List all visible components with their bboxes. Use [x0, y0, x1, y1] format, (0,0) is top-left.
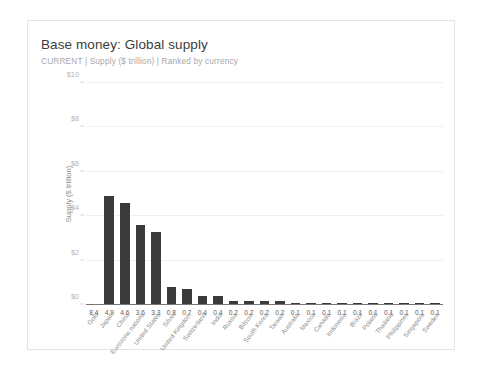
x-axis-label-slot: Brazil: [350, 311, 366, 371]
bar-slot[interactable]: 0.1: [334, 83, 350, 305]
bar-slot[interactable]: 0.4: [210, 83, 226, 305]
bar[interactable]: [120, 203, 130, 305]
bar-slot[interactable]: 0.1: [350, 83, 366, 305]
x-axis-label-slot: Philippines: [396, 311, 412, 371]
bar-slot[interactable]: 4.9: [102, 83, 118, 305]
x-axis-labels: GoldJapanChinaEurozone nationsUnited Sta…: [86, 311, 443, 371]
bar-slot[interactable]: 0.8: [164, 83, 180, 305]
bar-slot[interactable]: 0.2: [226, 83, 242, 305]
x-axis-label-slot: Australia: [288, 311, 304, 371]
bar-slot[interactable]: 0.1: [381, 83, 397, 305]
x-axis-category-label: Gold: [85, 311, 99, 326]
bar-slot[interactable]: 0.1: [365, 83, 381, 305]
bar-slot[interactable]: 3.3: [148, 83, 164, 305]
bar-slot[interactable]: 0.1: [412, 83, 428, 305]
y-axis-tick-label: $10: [67, 70, 79, 79]
x-axis-label-slot: India: [210, 311, 226, 371]
x-axis-label-slot: Canada: [319, 311, 335, 371]
bar[interactable]: [136, 225, 146, 305]
bar-slot[interactable]: 4.6: [117, 83, 133, 305]
x-axis-line: [86, 304, 443, 305]
y-axis-tick-mark: [80, 259, 84, 260]
bar-slot[interactable]: 0.2: [272, 83, 288, 305]
y-axis-tick-label: $0: [71, 292, 79, 301]
y-axis-tick-label: $4: [71, 203, 79, 212]
bar-slot[interactable]: 0.1: [319, 83, 335, 305]
x-axis-label-slot: South Korea: [257, 311, 273, 371]
bar-slot[interactable]: 0.7: [179, 83, 195, 305]
bar-slot[interactable]: 0.2: [241, 83, 257, 305]
page-title: Base money: Global supply: [41, 37, 208, 52]
bar-slot[interactable]: 0.1: [427, 83, 443, 305]
bar-slot[interactable]: 0.1: [303, 83, 319, 305]
x-axis-label-slot: Russia: [226, 311, 242, 371]
bar-slot[interactable]: 0.4: [195, 83, 211, 305]
y-axis-tick-mark: [80, 170, 84, 171]
x-axis-label-slot: United States: [148, 311, 164, 371]
x-axis-label-slot: Singapore: [412, 311, 428, 371]
bar[interactable]: [151, 232, 161, 305]
x-axis-label-slot: Japan: [102, 311, 118, 371]
chart-card: Base money: Global supply CURRENT | Supp…: [27, 20, 455, 350]
bar-slot[interactable]: 8.4: [86, 83, 102, 305]
x-axis-label-slot: Sweden: [427, 311, 443, 371]
x-axis-category-label: Japan: [98, 311, 114, 329]
bar[interactable]: [104, 196, 114, 305]
chart-subtitle: CURRENT | Supply ($ trillion) | Ranked b…: [41, 56, 238, 66]
x-axis-label-slot: Switzerland: [195, 311, 211, 371]
x-axis-label-slot: Gold: [86, 311, 102, 371]
y-axis-title: Supply ($ trillion): [64, 166, 73, 223]
bar[interactable]: [167, 287, 177, 305]
bar[interactable]: [182, 289, 192, 305]
bar-slot[interactable]: 3.6: [133, 83, 149, 305]
bar-slot[interactable]: 0.1: [288, 83, 304, 305]
y-axis-tick-label: $6: [71, 158, 79, 167]
x-axis-label-slot: Mexico: [303, 311, 319, 371]
x-axis-label-slot: Taiwan: [272, 311, 288, 371]
y-axis-tick-mark: [80, 126, 84, 127]
bar-slot[interactable]: 0.2: [257, 83, 273, 305]
plot-area: Supply ($ trillion) $0$2$4$6$8$10 8.44.9…: [86, 83, 443, 305]
y-axis-tick-mark: [80, 215, 84, 216]
y-axis-tick-mark: [80, 82, 84, 83]
y-axis-tick-label: $2: [71, 247, 79, 256]
bar-series: 8.44.94.63.63.30.80.70.40.40.20.20.20.20…: [86, 83, 443, 305]
y-axis-tick-mark: [80, 304, 84, 305]
bar-slot[interactable]: 0.1: [396, 83, 412, 305]
x-axis-label-slot: Indonesia: [334, 311, 350, 371]
x-axis-label-slot: Poland: [365, 311, 381, 371]
x-axis-label-slot: Thailand: [381, 311, 397, 371]
y-axis-tick-label: $8: [71, 114, 79, 123]
